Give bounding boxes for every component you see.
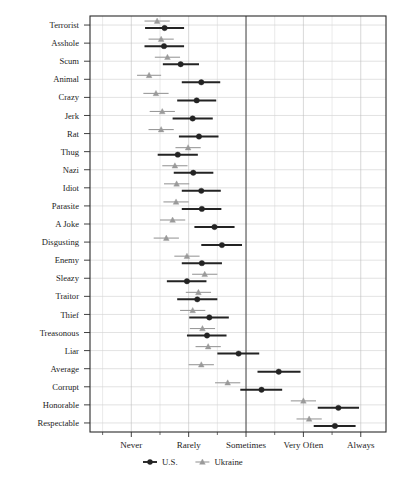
category-label-scum: Scum [59,56,79,66]
plot-canvas: TerroristAssholeScumAnimalCrazyJerkRatTh… [0,0,396,481]
point-marker-us [199,188,204,193]
category-label-animal: Animal [53,74,79,84]
category-label-thug: Thug [61,147,80,157]
point-marker-us [161,43,166,48]
x-tick-label-very-often: Very Often [284,440,324,450]
category-label-traitor: Traitor [55,291,79,301]
category-label-sleazy: Sleazy [56,273,80,283]
category-label-a-joke: A Joke [55,219,79,229]
category-label-crazy: Crazy [58,92,79,102]
point-marker-us [204,333,209,338]
category-label-thief: Thief [60,310,79,320]
category-label-honorable: Honorable [43,400,79,410]
point-marker-us [190,116,195,121]
point-marker-us [219,242,224,247]
category-label-idiot: Idiot [63,183,80,193]
category-label-rat: Rat [67,129,80,139]
x-tick-label-always: Always [347,440,375,450]
forest-plot-chart: TerroristAssholeScumAnimalCrazyJerkRatTh… [0,0,396,481]
point-marker-us [212,224,217,229]
point-marker-us [194,98,199,103]
category-label-liar: Liar [65,346,79,356]
category-label-asshole: Asshole [51,38,79,48]
category-label-disgusting: Disgusting [42,237,80,247]
point-marker-us [259,387,264,392]
legend-marker-us [147,459,152,464]
x-tick-label-never: Never [120,440,142,450]
category-label-corrupt: Corrupt [52,382,79,392]
point-marker-us [196,134,201,139]
x-tick-label-rarely: Rarely [177,440,201,450]
point-marker-us [199,260,204,265]
x-tick-label-sometimes: Sometimes [226,440,266,450]
point-marker-us [332,423,337,428]
point-marker-us [175,152,180,157]
point-marker-us [207,315,212,320]
legend-label-ukraine: Ukraine [214,457,242,467]
point-marker-us [178,62,183,67]
category-label-average: Average [51,364,80,374]
point-marker-us [195,297,200,302]
point-marker-us [336,405,341,410]
point-marker-us [184,279,189,284]
point-marker-us [162,25,167,30]
point-marker-us [236,351,241,356]
category-label-jerk: Jerk [65,111,80,121]
category-label-parasite: Parasite [52,201,79,211]
category-label-terrorist: Terrorist [50,20,80,30]
category-label-enemy: Enemy [55,255,80,265]
point-marker-us [191,170,196,175]
category-label-treasonous: Treasonous [40,328,80,338]
point-marker-us [199,80,204,85]
category-label-nazi: Nazi [63,165,80,175]
point-marker-us [276,369,281,374]
point-marker-us [199,206,204,211]
category-label-respectable: Respectable [37,418,79,428]
legend-label-us: U.S. [162,457,178,467]
